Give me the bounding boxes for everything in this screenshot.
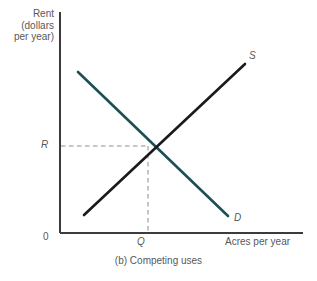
origin-label: 0 [43,231,49,242]
supply-curve [84,64,245,215]
x-axis-title: Acres per year [225,236,290,247]
demand-curve-label: D [234,212,241,223]
x-axis-tick-label-quantity: Q [137,236,145,247]
supply-curve-label: S [249,50,256,61]
figure-caption: (b) Competing uses [0,255,317,266]
figure-competing-uses: Rent (dollars per year) Acres per year 0… [0,0,317,281]
y-axis-tick-label-rent: R [41,139,48,150]
y-axis-title: Rent (dollars per year) [0,8,54,43]
demand-curve [78,72,228,216]
